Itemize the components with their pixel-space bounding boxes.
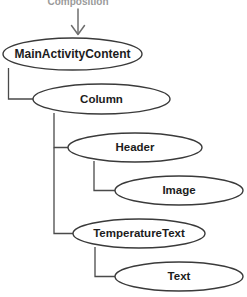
node-label-column: Column (80, 93, 123, 105)
node-label-header: Header (116, 141, 156, 153)
node-label-text: Text (168, 270, 191, 282)
connector-header-to-image (94, 161, 115, 191)
node-main-activity-content[interactable]: MainActivityContent (3, 38, 142, 70)
connector-main-to-column (9, 68, 34, 99)
node-label-temperature-text: TemperatureText (93, 227, 185, 239)
node-column[interactable]: Column (33, 84, 170, 114)
node-image[interactable]: Image (115, 176, 243, 205)
node-label-main-activity-content: MainActivityContent (14, 47, 130, 61)
node-text[interactable]: Text (115, 262, 243, 291)
node-header[interactable]: Header (68, 133, 202, 162)
connector-column-to-temperaturetext (54, 148, 73, 234)
node-temperature-text[interactable]: TemperatureText (73, 219, 205, 248)
connector-temperaturetext-to-text (95, 247, 115, 277)
connector-column-to-header (54, 113, 68, 148)
tree-canvas: Composition MainActivityContent Column (0, 0, 247, 297)
node-label-image: Image (162, 184, 195, 196)
composition-tree-diagram: Composition MainActivityContent Column (0, 0, 247, 297)
composition-caption: Composition (47, 0, 108, 7)
composition-entry-arrow (72, 9, 85, 35)
